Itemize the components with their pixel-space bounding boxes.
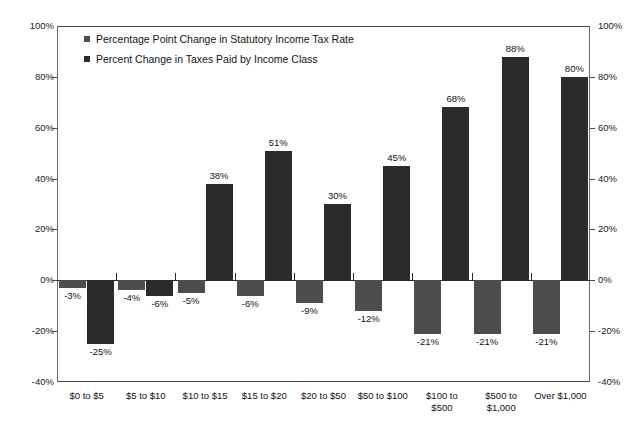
legend-swatch-icon-series2: [84, 56, 90, 62]
y-axis-left-tick-label: 100%: [30, 20, 54, 32]
y-axis-right-tick-label: -20%: [598, 325, 620, 337]
bar-value-label: 88%: [493, 43, 538, 55]
legend-label-series1: Percentage Point Change in Statutory Inc…: [96, 33, 354, 45]
legend-label-series2: Percent Change in Taxes Paid by Income C…: [96, 53, 318, 65]
bar-value-label: -21%: [465, 336, 510, 348]
x-axis-tick-mark: [412, 273, 413, 280]
x-axis-tick-mark: [294, 273, 295, 280]
x-axis-tick-mark: [531, 273, 532, 280]
y-axis-left-tick-mark: [52, 77, 57, 78]
x-axis-tick-mark: [235, 273, 236, 280]
y-axis-left-tick-mark: [52, 331, 57, 332]
y-axis-left-tick-mark: [52, 229, 57, 230]
y-axis-right-tick-label: 40%: [598, 173, 617, 185]
bar-series2: [206, 184, 233, 281]
bar-value-label: -21%: [524, 336, 569, 348]
y-axis-left-tick-mark: [52, 179, 57, 180]
bar-series1: [118, 280, 145, 290]
bar-series2: [383, 166, 410, 280]
bar-series1: [237, 280, 264, 295]
bar-value-label: 51%: [256, 137, 301, 149]
bar-series2: [502, 57, 529, 281]
y-axis-right-tick-mark: [590, 229, 595, 230]
y-axis-left-tick-label: -40%: [32, 376, 54, 388]
bar-value-label: -21%: [405, 336, 450, 348]
bar-series1: [296, 280, 323, 303]
y-axis-right-tick-label: 60%: [598, 122, 617, 134]
y-axis-right-tick-mark: [590, 331, 595, 332]
bar-value-label: -25%: [78, 346, 123, 358]
y-axis-right-tick-label: 80%: [598, 71, 617, 83]
y-axis-right-tick-label: 20%: [598, 223, 617, 235]
legend-item-series1: Percentage Point Change in Statutory Inc…: [84, 31, 354, 47]
x-axis-category-label: Over $1,000: [525, 390, 596, 402]
bar-value-label: 30%: [315, 190, 360, 202]
bar-value-label: 68%: [433, 93, 478, 105]
bar-value-label: -5%: [169, 295, 214, 307]
bar-series1: [474, 280, 501, 333]
chart-title: [0, 0, 643, 3]
bar-series1: [355, 280, 382, 311]
y-axis-right-tick-mark: [590, 77, 595, 78]
bar-series2: [87, 280, 114, 344]
bar-series1: [414, 280, 441, 333]
bar-value-label: 45%: [374, 152, 419, 164]
y-axis-left-tick-mark: [52, 128, 57, 129]
y-axis-right-tick-mark: [590, 280, 595, 281]
x-axis-tick-mark: [175, 273, 176, 280]
bar-value-label: -9%: [287, 305, 332, 317]
y-axis-left-tick-label: -20%: [32, 325, 54, 337]
x-axis-tick-mark: [472, 273, 473, 280]
y-axis-right-tick-label: -40%: [598, 376, 620, 388]
bar-series2: [146, 280, 173, 295]
bar-series2: [561, 77, 588, 280]
x-axis-tick-mark: [353, 273, 354, 280]
bar-value-label: 80%: [552, 63, 597, 75]
y-axis-right-tick-label: 100%: [598, 20, 622, 32]
bar-series2: [265, 151, 292, 281]
y-axis-right-tick-label: 0%: [598, 274, 612, 286]
bar-value-label: -12%: [346, 313, 391, 325]
legend-swatch-icon-series1: [84, 36, 90, 42]
bar-value-label: -6%: [228, 298, 273, 310]
bar-series1: [59, 280, 86, 288]
x-axis-tick-mark: [116, 273, 117, 280]
bar-value-label: 38%: [197, 170, 242, 182]
y-axis-right-tick-mark: [590, 179, 595, 180]
chart-legend: Percentage Point Change in Statutory Inc…: [84, 31, 354, 71]
bar-series2: [442, 107, 469, 280]
chart-figure: -40%-20%0%20%40%60%80%100% -40%-20%0%20%…: [0, 0, 643, 424]
bar-series1: [533, 280, 560, 333]
bar-series1: [178, 280, 205, 293]
legend-item-series2: Percent Change in Taxes Paid by Income C…: [84, 51, 354, 67]
y-axis-right-tick-mark: [590, 128, 595, 129]
bar-series2: [324, 204, 351, 280]
